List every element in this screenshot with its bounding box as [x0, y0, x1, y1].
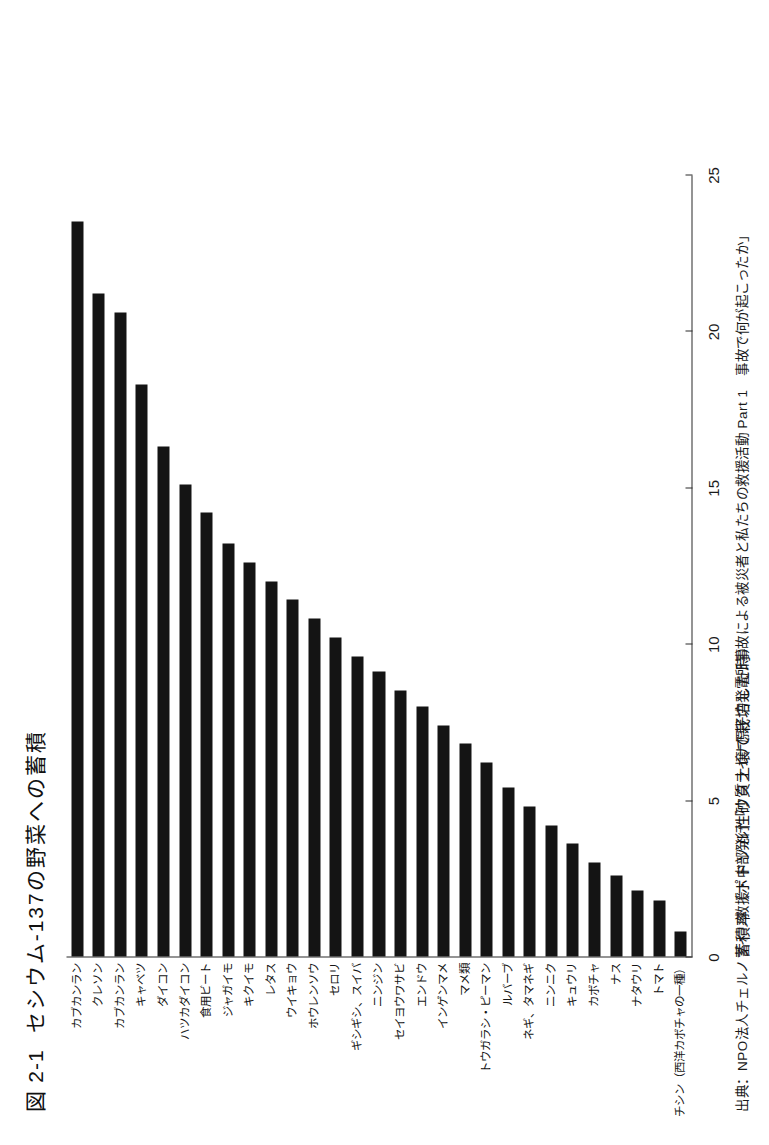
axis-tick [685, 643, 692, 644]
bar [674, 931, 686, 956]
bar-category-label: ギシギシ、スイバ [351, 962, 362, 1050]
source-note: 出典：NPO法人チェルノブイリ救援・中部発行「ウクライナ原子力発電所事故による被… [730, 228, 750, 1111]
bar-category-label: エンドウ [416, 962, 427, 1006]
bar-category-label: マメ類 [459, 962, 470, 995]
bar [157, 446, 169, 956]
bar-row: トマト [653, 900, 665, 956]
bar-category-label: ナス [610, 962, 621, 984]
value-axis-baseline [691, 175, 692, 957]
bar-category-label: ダイコン [157, 962, 168, 1006]
bar [566, 843, 578, 956]
bar-category-label: ルバーブ [502, 962, 513, 1005]
bar [588, 862, 600, 956]
bar [631, 890, 643, 956]
axis-tick-label: 25 [704, 167, 721, 184]
bar [372, 671, 384, 956]
bar-row: インゲンマメ [437, 725, 449, 956]
bar-category-label: ホウレンソウ [308, 962, 319, 1028]
bar-row: キャベツ [135, 384, 147, 956]
bar [523, 806, 535, 956]
bar-category-label: トマト [653, 962, 664, 995]
bar-row: マメ類 [459, 743, 471, 956]
bar [265, 581, 277, 956]
bar [179, 484, 191, 956]
bar-row: セロリ [329, 637, 341, 956]
bar-row: ジャガイモ [222, 543, 234, 956]
bar [135, 384, 147, 956]
bar-row: キュウリ [566, 843, 578, 956]
bar-row: ナタウリ [631, 890, 643, 956]
bar-row: トウガラシ・ピーマン [480, 762, 492, 956]
bar-category-label: キクイモ [244, 962, 255, 1006]
bar-category-label: ナタウリ [632, 962, 643, 1006]
bar [200, 512, 212, 956]
axis-tick-label: 15 [704, 479, 721, 496]
bar-chart-plot-area: 0510152025 カブカンランクレソンカブカンランキャベツダイコンハツカダイ… [66, 52, 691, 957]
bar [243, 562, 255, 956]
bar-category-label: ニンジン [373, 962, 384, 1006]
bar-row: ギシギシ、スイバ [351, 656, 363, 956]
bar-category-label: 食用ビート [201, 962, 212, 1017]
bar-category-label: カブカンラン [114, 962, 125, 1028]
bar [71, 221, 83, 956]
bar [222, 543, 234, 956]
bar [459, 743, 471, 956]
axis-tick-label: 5 [704, 796, 721, 804]
bar-category-label: カボチャ [589, 962, 600, 1006]
axis-tick-label: 10 [704, 636, 721, 653]
figure-title: 図 2-1セシウム-137の野菜への蓄積 [18, 730, 48, 1111]
bar-row: ニンニク [545, 825, 557, 956]
bar-category-label: トウガラシ・ピーマン [481, 962, 492, 1072]
axis-tick [685, 487, 692, 488]
bar [480, 762, 492, 956]
bar [653, 900, 665, 956]
bar [437, 725, 449, 956]
axis-tick [685, 330, 692, 331]
bar-category-label: セイヨウワサビ [395, 962, 406, 1039]
bar [545, 825, 557, 956]
bar-category-label: キュウリ [567, 962, 578, 1006]
bar-row: レタス [265, 581, 277, 956]
bar-category-label: ハツカダイコン [179, 962, 190, 1039]
bar-row: チシン（西洋カボチャの一種） [674, 931, 686, 956]
bar [502, 787, 514, 956]
axis-tick-label: 0 [704, 953, 721, 961]
bar [610, 875, 622, 956]
bar-row: セイヨウワサビ [394, 690, 406, 956]
bar [329, 637, 341, 956]
bar-row: ニンジン [372, 671, 384, 956]
bar [92, 293, 104, 956]
bar-row: 食用ビート [200, 512, 212, 956]
rotated-figure-canvas: 図 2-1セシウム-137の野菜への蓄積 0510152025 カブカンランクレ… [0, 0, 769, 1145]
bar-category-label: ウイキョウ [287, 962, 298, 1017]
bar-category-label: キャベツ [136, 962, 147, 1006]
bar-row: クレソン [92, 293, 104, 956]
bar-row: ネギ、タマネギ [523, 806, 535, 956]
bar-row: カブカンラン [114, 312, 126, 956]
bar-row: キクイモ [243, 562, 255, 956]
bar-row: カボチャ [588, 862, 600, 956]
figure-page: 図 2-1セシウム-137の野菜への蓄積 0510152025 カブカンランクレ… [0, 0, 769, 1145]
bar [308, 618, 320, 956]
bar [394, 690, 406, 956]
bar [351, 656, 363, 956]
axis-tick [685, 174, 692, 175]
axis-tick [685, 800, 692, 801]
bar-row: ルバーブ [502, 787, 514, 956]
bar-row: ホウレンソウ [308, 618, 320, 956]
axis-tick-label: 20 [704, 323, 721, 340]
bar-row: ダイコン [157, 446, 169, 956]
bar-category-label: クレソン [93, 962, 104, 1006]
bar-row: エンドウ [416, 706, 428, 956]
bar-row: カブカンラン [71, 221, 83, 956]
bar-category-label: カブカンラン [71, 962, 82, 1028]
bar-category-label: レタス [265, 962, 276, 995]
bar-row: ナス [610, 875, 622, 956]
bar-row: ハツカダイコン [179, 484, 191, 956]
bar [286, 599, 298, 956]
bar [416, 706, 428, 956]
bar-category-label: チシン（西洋カボチャの一種） [675, 962, 686, 1116]
figure-title-text: セシウム-137の野菜への蓄積 [23, 730, 46, 1033]
bar-category-label: ニンニク [545, 962, 556, 1006]
bar [114, 312, 126, 956]
